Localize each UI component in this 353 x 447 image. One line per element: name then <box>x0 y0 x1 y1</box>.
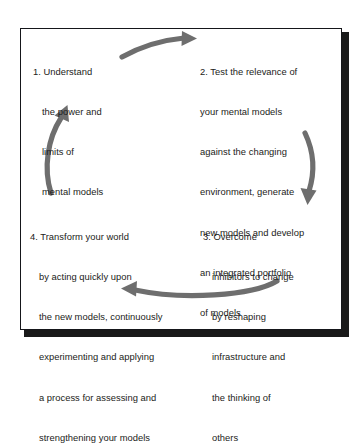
step-4-line-4: experimenting and applying <box>30 350 163 363</box>
step-3-line-1: 3. Overcome <box>203 230 294 243</box>
step-4-line-3: the new models, continuously <box>30 310 163 323</box>
step-1-line-4: mental models <box>33 185 103 198</box>
step-3-line-5: the thinking of <box>203 391 294 404</box>
step-4-line-2: by acting quickly upon <box>30 270 163 283</box>
step-3-line-6: others <box>203 431 294 444</box>
step-2-line-2: your mental models <box>200 105 304 118</box>
step-1-line-2: the power and <box>33 105 103 118</box>
step-2-line-1: 2. Test the relevance of <box>200 65 304 78</box>
step-2-line-4: environment, generate <box>200 185 304 198</box>
step-4-line-5: a process for assessing and <box>30 391 163 404</box>
step-3-line-4: infrastructure and <box>203 350 294 363</box>
step-3-line-2: inhibitors to change <box>203 270 294 283</box>
step-1-line-3: limits of <box>33 145 103 158</box>
step-2-line-3: against the changing <box>200 145 304 158</box>
step-3-line-3: by reshaping <box>203 310 294 323</box>
step-1-line-1: 1. Understand <box>33 65 103 78</box>
step-4-text: 4. Transform your world by acting quickl… <box>30 203 163 447</box>
step-4-line-6: strengthening your models <box>30 431 163 444</box>
step-4-line-1: 4. Transform your world <box>30 230 163 243</box>
step-3-text: 3. Overcome inhibitors to change by resh… <box>203 203 294 447</box>
step-1-text: 1. Understand the power and limits of me… <box>33 38 103 226</box>
